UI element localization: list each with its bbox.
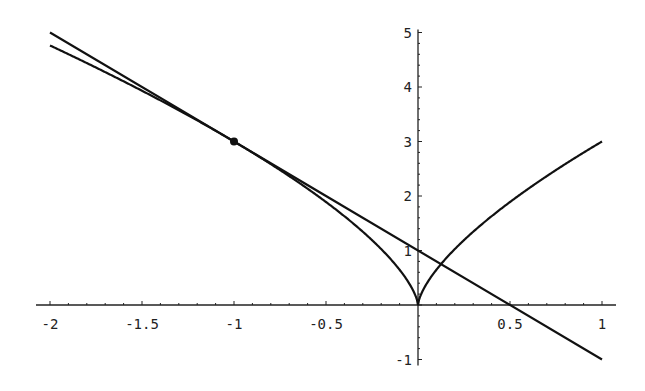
y-tick-labels: -112345	[395, 25, 412, 368]
chart-plot: -2-1.5-1-0.50.51 -112345	[0, 0, 645, 391]
x-tick-label: -1.5	[125, 316, 159, 332]
x-tick-label: -2	[42, 316, 59, 332]
x-tick-label: -1	[226, 316, 243, 332]
y-tick-label: 4	[404, 79, 412, 95]
x-axis	[36, 301, 616, 305]
y-axis	[418, 30, 422, 366]
y-tick-label: 3	[404, 134, 412, 150]
y-tick-label: 2	[404, 188, 412, 204]
y-tick-label: -1	[395, 352, 412, 368]
x-tick-label: -0.5	[309, 316, 343, 332]
x-tick-label: 1	[598, 316, 606, 332]
tangent-point-marker	[230, 138, 238, 146]
y-tick-label: 5	[404, 25, 412, 41]
x-tick-labels: -2-1.5-1-0.50.51	[42, 316, 607, 332]
curve-series	[50, 45, 602, 305]
x-tick-label: 0.5	[497, 316, 522, 332]
